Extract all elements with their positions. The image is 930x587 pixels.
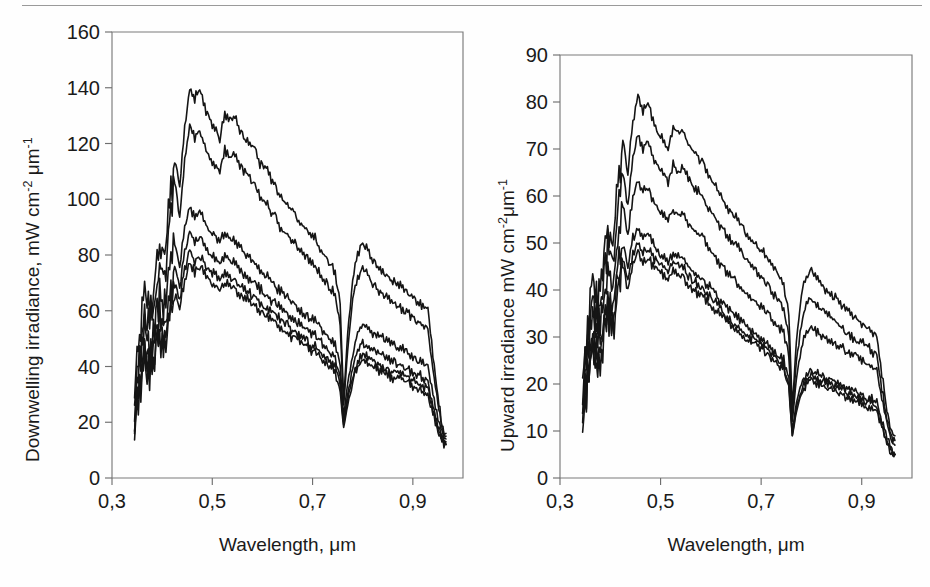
y-tick-label: 100: [67, 188, 100, 210]
y-tick-label: 20: [78, 411, 100, 433]
y-tick-label: 0: [89, 467, 100, 489]
y-tick-label: 70: [526, 138, 548, 160]
y-tick-label: 40: [78, 356, 100, 378]
upward-plot: 01020304050607080900,30,50,70,9: [475, 0, 930, 587]
y-tick-label: 0: [537, 467, 548, 489]
y-tick-label: 120: [67, 133, 100, 155]
y-tick-label: 60: [78, 300, 100, 322]
x-tick-label: 0,5: [198, 490, 226, 512]
y-tick-label: 40: [526, 279, 548, 301]
panel-downwelling: 0204060801001201401600,30,50,70,9 Downwe…: [0, 0, 500, 587]
y-tick-label: 140: [67, 77, 100, 99]
y-tick-label: 30: [526, 326, 548, 348]
y-tick-label: 50: [526, 232, 548, 254]
y-tick-label: 60: [526, 185, 548, 207]
upward-y-axis-title: Upward irradiance mW cm-2μm-1: [497, 179, 519, 452]
spectrum-curve-5: [583, 243, 895, 455]
upward-x-axis-title: Wavelength, μm: [560, 534, 912, 556]
spectrum-curve-4: [583, 229, 895, 456]
y-tick-label: 80: [78, 244, 100, 266]
spectrum-curve-6-bottom: [135, 264, 446, 448]
y-tick-label: 20: [526, 373, 548, 395]
plot-frame: [560, 55, 912, 478]
x-tick-label: 0,7: [299, 490, 327, 512]
x-tick-label: 0,3: [546, 490, 574, 512]
y-tick-label: 80: [526, 91, 548, 113]
x-tick-label: 0,7: [747, 490, 775, 512]
x-tick-label: 0,9: [848, 490, 876, 512]
downwelling-y-axis-title: Downwelling irradiance, mW cm-2 μm-1: [22, 137, 44, 462]
x-tick-label: 0,3: [98, 490, 126, 512]
x-tick-label: 0,5: [647, 490, 675, 512]
y-tick-label: 160: [67, 21, 100, 43]
downwelling-x-axis-title: Wavelength, μm: [112, 534, 463, 556]
x-tick-label: 0,9: [399, 490, 427, 512]
panel-upward: 01020304050607080900,30,50,70,9 Upward i…: [475, 0, 930, 587]
y-tick-label: 10: [526, 420, 548, 442]
figure-root: 0204060801001201401600,30,50,70,9 Downwe…: [0, 0, 930, 587]
y-tick-label: 90: [526, 44, 548, 66]
downwelling-plot: 0204060801001201401600,30,50,70,9: [0, 0, 500, 587]
